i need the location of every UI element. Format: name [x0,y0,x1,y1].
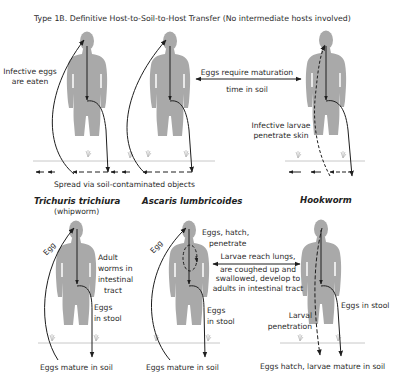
label-trichuris-stool: Eggs in stool [94,302,122,324]
label-line: Larval [264,310,312,321]
label-hookworm-larval: Larval penetration [264,310,312,332]
label-line: Larvae reach lungs, [208,252,308,262]
label-line: Infective eggs [2,67,58,77]
label-ascaris-soil: Eggs mature in soil [146,363,219,373]
label-line: tract [98,285,133,296]
label-line: penetrate skin [248,131,314,141]
label-ascaris-hatch: Eggs, hatch, penetrate [202,227,249,249]
label-larvae-penetrate-skin: Infective larvae penetrate skin [248,121,314,140]
label-line: penetrate [202,238,249,249]
species-hookworm: Hookworm [300,195,352,205]
label-line: Eggs [94,302,122,313]
label-line: Adult [98,252,133,263]
label-line: swallowed, develop to [208,274,308,284]
label-trichuris-soil: Eggs mature in soil [40,363,113,373]
label-spread: Spread via soil-contaminated objects [54,180,195,190]
label-maturation: Eggs require maturation time in soil [197,65,297,97]
species-trichuris: Trichuris trichiura [34,196,120,206]
ground-line-bottom [38,334,365,343]
label-line: Infective larvae [248,121,314,131]
label-line: Eggs require maturation [197,65,297,80]
label-line: worms in [98,263,133,274]
human-figure-trichuris-bottom [56,221,96,326]
label-ascaris-lungs: Larvae reach lungs, are coughed up and s… [208,252,308,293]
label-line: Eggs [207,305,235,316]
ground-line-top [33,150,365,161]
label-hookworm-soil: Eggs hatch, larvae mature in soil [260,362,385,372]
label-ascaris-stool: Eggs in stool [207,305,235,327]
label-line: are coughed up and [208,265,308,275]
label-line: are eaten [2,77,58,87]
species-trichuris-common: (whipworm) [54,207,99,216]
diagram-title: Type 1B. Definitive Host-to-Soil-to-Host… [34,14,351,23]
label-line: Eggs, hatch, [202,227,249,238]
lifecycle-diagram: Type 1B. Definitive Host-to-Soil-to-Host… [0,0,409,388]
diagram-graphics [0,0,409,388]
label-infective-eggs: Infective eggs are eaten [2,67,58,86]
label-line: in stool [207,316,235,327]
label-trichuris-adult: Adult worms in intestinal tract [98,252,133,296]
label-line: time in soil [197,82,297,97]
label-hookworm-stool: Eggs in stool [341,301,389,311]
label-line: in stool [94,313,122,324]
species-ascaris: Ascaris lumbricoides [142,196,242,206]
label-line: penetration [264,321,312,332]
label-line: adults in intestinal tract [208,284,308,294]
label-line: intestinal [98,274,133,285]
